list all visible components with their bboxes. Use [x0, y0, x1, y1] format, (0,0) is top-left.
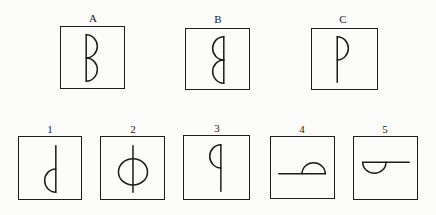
option-box-4[interactable]: [270, 136, 335, 199]
panel-box-a[interactable]: [60, 26, 125, 89]
horizontal-line-with-downward-semicircle-glyph: [354, 137, 417, 199]
panel-label-c: C: [331, 13, 355, 25]
option-box-2[interactable]: [100, 136, 165, 200]
option-label-1: 1: [38, 123, 62, 135]
option-box-3[interactable]: [183, 135, 250, 200]
option-label-3: 3: [205, 122, 229, 134]
option-box-1[interactable]: [18, 136, 82, 200]
horizontal-line-with-upward-semicircle-glyph: [271, 137, 334, 198]
panel-label-a: A: [81, 12, 105, 24]
visual-analogy-puzzle: A B C: [0, 0, 436, 215]
panel-box-c[interactable]: [311, 28, 378, 90]
mirrored-letter-b-glyph: [186, 29, 249, 89]
option-label-5: 5: [373, 123, 397, 135]
letter-p-glyph: [312, 29, 377, 89]
letter-b-glyph: [61, 27, 124, 88]
letter-d-glyph: [19, 137, 81, 199]
option-label-2: 2: [121, 123, 145, 135]
option-label-4: 4: [290, 123, 314, 135]
option-box-5[interactable]: [353, 136, 418, 200]
circle-with-vertical-line-glyph: [101, 137, 164, 199]
panel-box-b[interactable]: [185, 28, 250, 90]
panel-label-b: B: [206, 13, 230, 25]
letter-q-glyph: [184, 136, 249, 199]
